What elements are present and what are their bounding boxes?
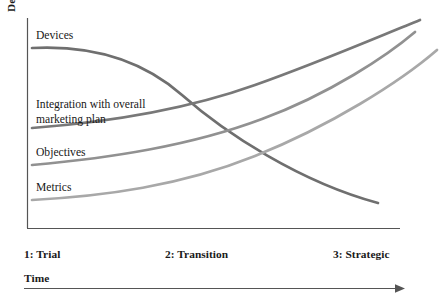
x-axis-stage-label-strategic: 3: Strategic xyxy=(333,248,390,260)
series-label-objectives: Objectives xyxy=(36,146,86,161)
x-axis-stage-label-trial: 1: Trial xyxy=(24,248,60,260)
x-axis-stage-label-transition: 2: Transition xyxy=(165,248,228,260)
chart-figure: Devices Used/Focus on Strategy Devices I… xyxy=(0,0,448,294)
series-label-devices: Devices xyxy=(36,29,73,44)
series-label-integration: Integration with overall marketing plan xyxy=(36,98,145,127)
time-axis-arrowhead xyxy=(395,284,405,292)
series-label-metrics: Metrics xyxy=(36,181,71,196)
time-axis-title: Time xyxy=(24,272,49,284)
